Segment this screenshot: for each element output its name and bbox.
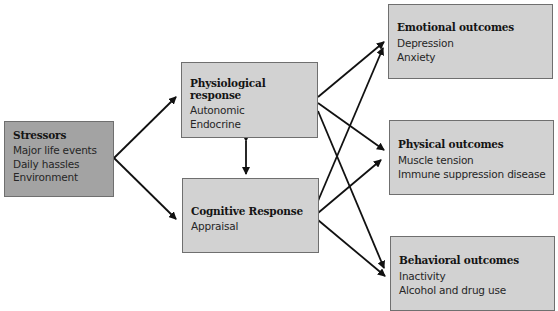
arrow-physiological-to-physical	[318, 103, 384, 150]
stressors-item: Environment	[13, 171, 113, 185]
cognitive-response-item: Appraisal	[191, 220, 318, 234]
cognitive-response-box: Cognitive Response Appraisal	[182, 178, 319, 253]
behavioral-outcomes-box: Behavioral outcomes Inactivity Alcohol a…	[390, 236, 555, 311]
emotional-outcomes-title: Emotional outcomes	[397, 21, 552, 33]
physiological-response-item: Autonomic	[190, 104, 317, 118]
physical-outcomes-box: Physical outcomes Muscle tension Immune …	[389, 120, 554, 195]
stressors-item: Daily hassles	[13, 158, 113, 172]
physical-outcomes-item: Immune suppression disease	[398, 168, 553, 182]
behavioral-outcomes-item: Inactivity	[399, 270, 554, 284]
physical-outcomes-title: Physical outcomes	[398, 138, 553, 150]
behavioral-outcomes-item: Alcohol and drug use	[399, 284, 554, 298]
arrow-physiological-to-behavioral	[318, 111, 384, 268]
physiological-response-box: Physiological response Autonomic Endocri…	[181, 62, 318, 138]
stressors-title: Stressors	[13, 129, 113, 141]
stressors-item: Major life events	[13, 144, 113, 158]
physiological-response-title: Physiological response	[190, 77, 317, 101]
arrow-stressors-to-physiological	[114, 97, 176, 158]
stressors-box: Stressors Major life events Daily hassle…	[4, 121, 114, 197]
behavioral-outcomes-title: Behavioral outcomes	[399, 254, 554, 266]
physical-outcomes-item: Muscle tension	[398, 154, 553, 168]
physiological-response-item: Endocrine	[190, 118, 317, 132]
cognitive-response-title: Cognitive Response	[191, 205, 318, 217]
emotional-outcomes-item: Anxiety	[397, 51, 552, 65]
emotional-outcomes-item: Depression	[397, 37, 552, 51]
arrow-cognitive-to-physical	[318, 160, 381, 213]
arrow-stressors-to-cognitive	[114, 158, 176, 219]
emotional-outcomes-box: Emotional outcomes Depression Anxiety	[388, 4, 553, 79]
